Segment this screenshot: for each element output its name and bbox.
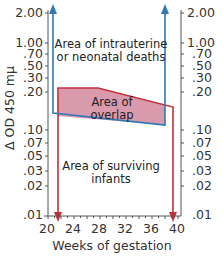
y-axis-title: Δ OD 450 mμ — [2, 66, 17, 150]
svg-text:20: 20 — [39, 221, 55, 236]
svg-text:.20: .20 — [192, 84, 212, 99]
overlap-label-2: overlap — [90, 108, 133, 122]
svg-text:.01: .01 — [192, 207, 212, 222]
svg-text:.03: .03 — [192, 163, 212, 178]
x-axis-title: Weeks of gestation — [52, 238, 171, 253]
svg-text:.30: .30 — [192, 70, 212, 85]
blue-arrow-left-icon — [49, 4, 57, 14]
upper-area-label-2: or neonatal deaths — [57, 50, 166, 64]
svg-text:.30: .30 — [23, 70, 43, 85]
left-y-tick-labels: 2.00 1.00 .70 .50 .30 .20 .10 .07 .05 .0… — [15, 5, 43, 222]
svg-text:.02: .02 — [192, 178, 212, 193]
x-tick-labels: 20 24 28 32 36 40 — [39, 221, 185, 236]
svg-text:.03: .03 — [23, 163, 43, 178]
svg-text:.05: .05 — [23, 148, 43, 163]
chart-svg: 2.00 1.00 .70 .50 .30 .20 .10 .07 .05 .0… — [0, 0, 223, 257]
lower-area-label-2: infants — [91, 172, 130, 186]
svg-text:28: 28 — [91, 221, 107, 236]
chart-container: 2.00 1.00 .70 .50 .30 .20 .10 .07 .05 .0… — [0, 0, 223, 257]
svg-text:2.00: 2.00 — [15, 5, 43, 20]
svg-text:.01: .01 — [23, 207, 43, 222]
x-ticks — [48, 216, 178, 219]
svg-text:2.00: 2.00 — [187, 5, 215, 20]
svg-text:40: 40 — [169, 221, 185, 236]
svg-text:.20: .20 — [23, 84, 43, 99]
right-y-tick-labels: 2.00 1.00 .70 .50 .30 .20 .10 .07 .05 .0… — [187, 5, 215, 222]
svg-text:.05: .05 — [192, 148, 212, 163]
svg-text:36: 36 — [143, 221, 159, 236]
blue-arrow-right-icon — [161, 4, 169, 14]
svg-text:32: 32 — [117, 221, 133, 236]
upper-area-label-1: Area of intrauterine — [55, 37, 168, 51]
svg-text:.02: .02 — [23, 178, 43, 193]
svg-text:24: 24 — [65, 221, 81, 236]
lower-area-label-1: Area of surviving — [62, 159, 159, 173]
overlap-label-1: Area of — [91, 95, 133, 109]
